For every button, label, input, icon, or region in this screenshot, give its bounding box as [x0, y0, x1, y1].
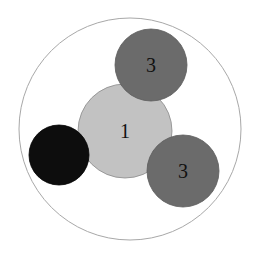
circle-left — [29, 125, 89, 185]
circle-label: 3 — [178, 160, 188, 182]
circle-label: 3 — [146, 54, 156, 76]
circle-label: 1 — [120, 120, 130, 142]
circle-top: 3 — [115, 29, 187, 101]
circle-diagram: 133 — [0, 0, 260, 256]
circle-shape — [29, 125, 89, 185]
circle-bottom-right: 3 — [147, 135, 219, 207]
